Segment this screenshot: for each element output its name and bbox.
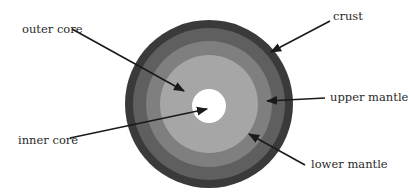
label-inner-core: inner core xyxy=(18,135,78,147)
earth-layers-diagram: outer core inner core crust upper mantle… xyxy=(0,0,411,194)
label-upper-mantle: upper mantle xyxy=(330,92,408,104)
arrow-crust xyxy=(271,21,330,52)
layer-rings xyxy=(125,20,293,188)
label-outer-core: outer core xyxy=(22,24,83,36)
label-lower-mantle: lower mantle xyxy=(311,159,388,171)
layer-inner-core xyxy=(192,89,226,123)
label-crust: crust xyxy=(333,11,363,23)
